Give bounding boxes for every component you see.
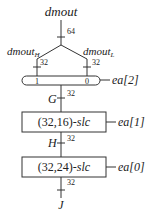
slc-block-2-label: (32,24)-slc — [38, 160, 91, 174]
wire-g-label: G — [48, 92, 57, 106]
slc-block-1-control: ea[1] — [118, 115, 145, 129]
output-label: J — [58, 198, 64, 212]
branch-low-width: 32 — [92, 58, 100, 67]
wire-g-width: 32 — [67, 89, 75, 98]
branch-high-width: 32 — [40, 58, 48, 67]
datapath-diagram: dmout 64 dmoutH 32 dmoutL 32 1 0 ea[2] G… — [0, 0, 156, 212]
branch-high-label: dmoutH — [7, 45, 41, 59]
input-width: 64 — [67, 27, 75, 36]
wire-h-label: H — [47, 136, 58, 150]
input-label: dmout — [45, 4, 78, 19]
branch-low-label: dmoutL — [83, 45, 115, 59]
mux-port-1: 1 — [35, 77, 39, 86]
wire-h-width: 32 — [67, 134, 75, 143]
slc-block-2-control: ea[0] — [118, 160, 145, 174]
wire-j-width: 32 — [67, 178, 75, 187]
slc-block-1-label: (32,16)-slc — [38, 115, 91, 129]
mux-port-0: 0 — [85, 77, 89, 86]
mux-select-label: ea[2] — [112, 73, 139, 87]
